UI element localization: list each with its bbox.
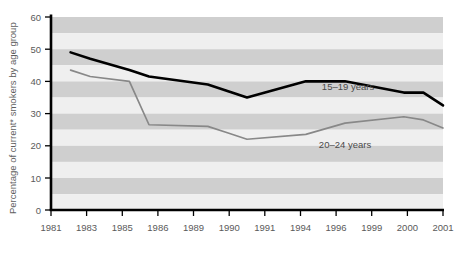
x-tick-label: 2001 — [432, 222, 453, 233]
plot-banding — [51, 17, 443, 210]
smokers-line-chart: 60 50 40 30 20 10 0 Percentage of curren… — [0, 0, 463, 255]
y-tick-label: 0 — [36, 205, 41, 216]
y-tick-label: 20 — [30, 140, 41, 151]
x-tick-label: 1994 — [290, 222, 311, 233]
chart-container: 60 50 40 30 20 10 0 Percentage of curren… — [0, 0, 463, 255]
series-label-15-19: 15–19 years — [322, 81, 375, 92]
x-tick-label: 2000 — [397, 222, 418, 233]
x-tick-label: 1996 — [326, 222, 347, 233]
x-tick-label: 1986 — [147, 222, 168, 233]
x-tick-label: 1985 — [112, 222, 133, 233]
series-label-20-24: 20–24 years — [319, 139, 372, 150]
x-tick-label: 1991 — [254, 222, 275, 233]
y-tick-label: 60 — [30, 12, 41, 23]
y-axis-title: Percentage of current* smokers by age gr… — [7, 22, 18, 214]
x-tick-label: 1981 — [40, 222, 61, 233]
x-tick-label: 1989 — [183, 222, 204, 233]
y-tick-label: 10 — [30, 173, 41, 184]
y-tick-label: 30 — [30, 108, 41, 119]
x-tick-label: 1983 — [76, 222, 97, 233]
x-tick-label: 1990 — [219, 222, 240, 233]
y-tick-label: 40 — [30, 76, 41, 87]
x-tick-label: 1999 — [361, 222, 382, 233]
y-tick-label: 50 — [30, 44, 41, 55]
